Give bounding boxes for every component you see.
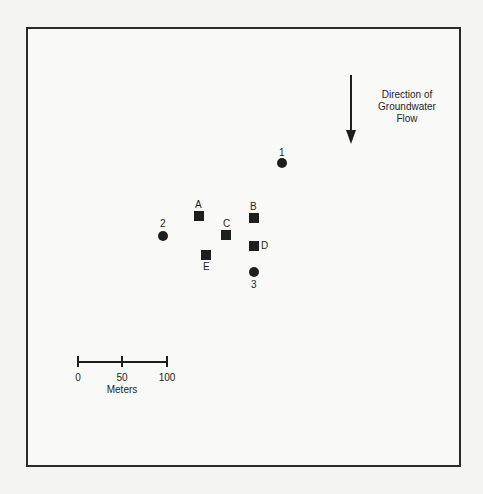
- well-marker-2: [158, 231, 168, 241]
- flow-label-line: Flow: [362, 113, 452, 125]
- arrow-head: [346, 130, 356, 144]
- sample-marker-e: [201, 250, 211, 260]
- flow-label-line: Direction of: [362, 89, 452, 101]
- scale-tick-100: [166, 356, 168, 367]
- scale-label-0: 0: [75, 373, 81, 383]
- sample-marker-c: [221, 230, 231, 240]
- arrow-shaft: [350, 75, 352, 133]
- scale-tick-0: [77, 356, 79, 367]
- well-label-2: 2: [160, 219, 166, 229]
- flow-label-line: Groundwater: [362, 101, 452, 113]
- well-marker-3: [249, 267, 259, 277]
- sample-label-c: C: [223, 219, 230, 229]
- sample-marker-b: [249, 213, 259, 223]
- well-label-3: 3: [251, 280, 257, 290]
- scale-label-100: 100: [159, 373, 176, 383]
- scale-label-50: 50: [116, 373, 127, 383]
- flow-direction-label: Direction of Groundwater Flow: [362, 89, 452, 125]
- sample-marker-d: [249, 241, 259, 251]
- scale-unit-label: Meters: [107, 385, 138, 395]
- well-label-1: 1: [279, 148, 285, 158]
- sample-label-e: E: [203, 262, 210, 272]
- well-marker-1: [277, 158, 287, 168]
- sample-label-b: B: [250, 202, 257, 212]
- sample-label-a: A: [195, 200, 202, 210]
- scale-tick-50: [121, 356, 123, 367]
- sample-label-d: D: [261, 241, 268, 251]
- sample-marker-a: [194, 211, 204, 221]
